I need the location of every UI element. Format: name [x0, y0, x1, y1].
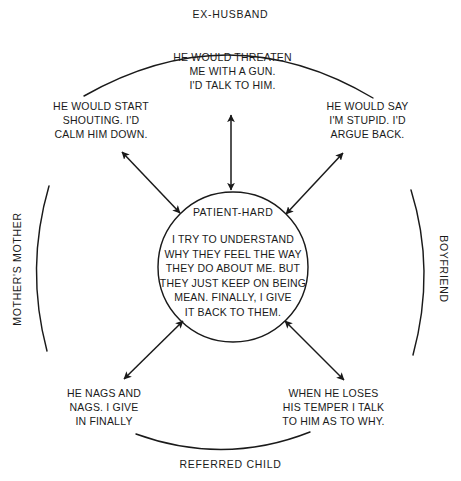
arc-bottom-referred-child — [136, 432, 310, 450]
group-label-mothers-mother: MOTHER'S MOTHER — [10, 189, 24, 349]
statement-bottom-right: WHEN HE LOSES HIS TEMPER I TALK TO HIM A… — [256, 386, 411, 428]
arrow-center-to-bottom-right — [285, 321, 344, 380]
diagram-canvas: EX-HUSBAND REFERRED CHILD MOTHER'S MOTHE… — [0, 0, 461, 481]
arrow-center-to-top-left — [122, 152, 180, 213]
statement-top: HE WOULD THREATEN ME WITH A GUN. I'D TAL… — [150, 50, 315, 92]
statement-top-left: HE WOULD START SHOUTING. I'D CALM HIM DO… — [26, 99, 176, 141]
center-body-text: I TRY TO UNDERSTAND WHY THEY FEEL THE WA… — [146, 232, 320, 319]
arc-left-mothers-mother — [36, 186, 49, 351]
center-heading: PATIENT-HARD — [163, 205, 303, 219]
group-label-boyfriend: BOYFRIEND — [437, 189, 451, 349]
statement-bottom-left: HE NAGS AND NAGS. I GIVE IN FINALLY — [30, 386, 178, 428]
statement-top-right: HE WOULD SAY I'M STUPID. I'D ARGUE BACK. — [295, 99, 440, 141]
group-label-referred-child: REFERRED CHILD — [0, 457, 461, 471]
arc-right-boyfriend — [411, 190, 424, 355]
arrow-center-to-bottom-left — [124, 321, 183, 379]
group-label-ex-husband: EX-HUSBAND — [0, 7, 461, 21]
